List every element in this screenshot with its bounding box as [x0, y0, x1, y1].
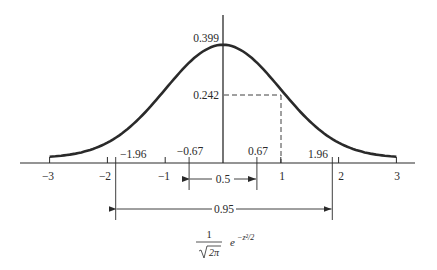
tick-label: 1 — [279, 170, 285, 182]
marked-point-label: 0.67 — [248, 145, 268, 157]
svg-text:2π: 2π — [209, 247, 220, 258]
normal-curve-diagram: 0.399 0.242 −3 −2 −1 1 2 3 −1.96 −0.67 0… — [0, 0, 437, 270]
interval-95-label: 0.95 — [214, 203, 234, 215]
interval-50-label: 0.5 — [216, 173, 231, 185]
svg-text:e: e — [230, 236, 235, 248]
tick-label: −1 — [158, 170, 170, 182]
marked-point-label: 1.96 — [308, 148, 328, 160]
value-at-one-label: 0.242 — [193, 89, 219, 101]
peak-label: 0.399 — [193, 32, 219, 44]
tick-label: 3 — [394, 170, 400, 182]
svg-text:−z²/2: −z²/2 — [237, 233, 254, 242]
svg-text:1: 1 — [206, 229, 211, 240]
tick-label: −2 — [99, 170, 111, 182]
density-formula: 1 2π e −z²/2 — [196, 229, 254, 258]
marked-point-label: −0.67 — [177, 145, 204, 157]
marked-point-label: −1.96 — [120, 148, 147, 160]
tick-label: −3 — [42, 170, 54, 182]
tick-label: 2 — [338, 170, 344, 182]
